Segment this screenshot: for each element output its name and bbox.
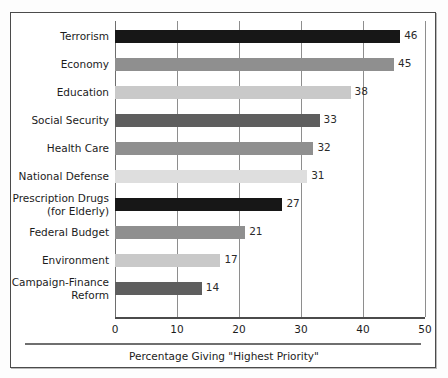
category-label: Education [0, 86, 109, 99]
bar-value-label: 27 [286, 196, 299, 210]
chart-caption: Percentage Giving "Highest Priority" [11, 350, 437, 362]
bar[interactable] [115, 198, 282, 211]
bar-value-label: 45 [398, 56, 411, 70]
category-label: Terrorism [0, 30, 109, 43]
x-tick-label-20: 20 [232, 323, 245, 335]
bar-row[interactable]: 45 [115, 51, 425, 79]
bar[interactable] [115, 254, 220, 267]
category-label: Prescription Drugs (for Elderly) [0, 192, 109, 217]
bar[interactable] [115, 170, 307, 183]
bar-value-label: 21 [249, 224, 262, 238]
plot-area: TerrorismEconomyEducationSocial Security… [115, 21, 425, 317]
bar-value-label: 38 [355, 84, 368, 98]
bar-row[interactable]: 31 [115, 163, 425, 191]
category-label: Campaign-Finance Reform [0, 276, 109, 301]
bar[interactable] [115, 114, 320, 127]
bar-value-label: 14 [206, 280, 219, 294]
bar-row[interactable]: 17 [115, 247, 425, 275]
category-label: Social Security [0, 114, 109, 127]
x-tick-label-0: 0 [112, 323, 119, 335]
category-label: Health Care [0, 142, 109, 155]
bar[interactable] [115, 282, 202, 295]
bar[interactable] [115, 226, 245, 239]
bar[interactable] [115, 58, 394, 71]
bar[interactable] [115, 30, 400, 43]
bar-row[interactable]: 21 [115, 219, 425, 247]
x-tick-label-30: 30 [294, 323, 307, 335]
bar[interactable] [115, 142, 313, 155]
x-axis-line [115, 317, 425, 319]
bar-value-label: 33 [324, 112, 337, 126]
bar-row[interactable]: 38 [115, 79, 425, 107]
category-label: Economy [0, 58, 109, 71]
bar-value-label: 46 [404, 28, 417, 42]
chart-frame: TerrorismEconomyEducationSocial Security… [10, 12, 436, 368]
category-label: National Defense [0, 170, 109, 183]
x-tick-label-10: 10 [170, 323, 183, 335]
gridline-50 [425, 21, 426, 317]
bar-value-label: 31 [311, 168, 324, 182]
x-tick-label-50: 50 [418, 323, 431, 335]
bar-value-label: 17 [224, 252, 237, 266]
bar-value-label: 32 [317, 140, 330, 154]
category-label: Federal Budget [0, 226, 109, 239]
bar-row[interactable]: 46 [115, 23, 425, 51]
bar-row[interactable]: 14 [115, 275, 425, 303]
bar-row[interactable]: 33 [115, 107, 425, 135]
bar-row[interactable]: 32 [115, 135, 425, 163]
x-tick-label-40: 40 [356, 323, 369, 335]
bar-chart-figure: TerrorismEconomyEducationSocial Security… [0, 0, 448, 378]
bar[interactable] [115, 86, 351, 99]
category-axis-labels: TerrorismEconomyEducationSocial Security… [0, 21, 109, 317]
category-label: Environment [0, 254, 109, 267]
bar-row[interactable]: 27 [115, 191, 425, 219]
caption-divider [25, 343, 421, 345]
